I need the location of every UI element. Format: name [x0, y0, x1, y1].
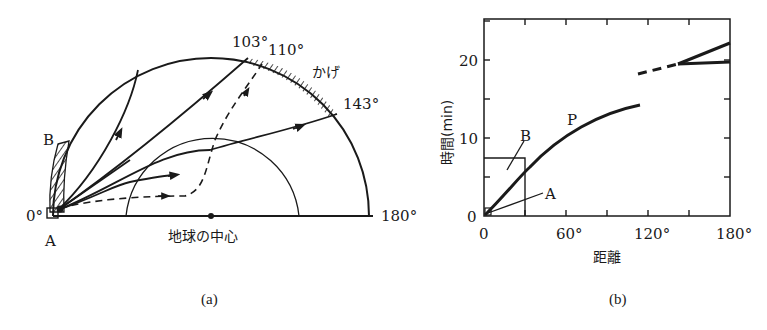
region-b-label: B — [520, 127, 531, 145]
figure-b-caption: (b) — [609, 291, 627, 308]
region-b-label: B — [43, 131, 54, 149]
curve-pkp-lower — [678, 62, 730, 64]
figure-b-travel-time-chart: 0 10 20 0 60° 120° 180° 距離 時間(min) P B A… — [439, 19, 752, 308]
curve-pkp-dashed — [638, 64, 678, 74]
angle-label-143: 143° — [343, 95, 379, 113]
figure-a-caption: (a) — [201, 291, 218, 308]
x-axis-label: 距離 — [593, 249, 621, 265]
ray-1 — [58, 70, 138, 210]
y-axis-label: 時間(min) — [439, 100, 455, 165]
ray-2 — [58, 58, 248, 210]
x-tick-60: 60° — [556, 225, 583, 243]
x-tick-120: 120° — [634, 225, 670, 243]
x-tick-0: 0 — [479, 225, 489, 243]
angle-label-110: 110° — [268, 41, 304, 59]
figure-a-earth-cross-section: 0° 180° 103° 110° 143° かげ 地球の中心 A B (a) — [26, 33, 417, 308]
curve-p-label: P — [567, 111, 577, 129]
y-tick-10: 10 — [459, 130, 478, 148]
y-tick-0: 0 — [467, 208, 477, 226]
earth-center-dot — [208, 213, 214, 219]
y-tick-20: 20 — [459, 52, 478, 70]
x-tick-180: 180° — [716, 225, 752, 243]
shadow-zone-label: かげ — [312, 64, 340, 80]
angle-label-103: 103° — [232, 33, 268, 51]
region-a-label: A — [544, 185, 556, 203]
figure-canvas: 0° 180° 103° 110° 143° かげ 地球の中心 A B (a) — [0, 0, 767, 330]
plot-frame — [484, 19, 730, 216]
earth-center-label: 地球の中心 — [168, 228, 238, 244]
leader-b — [507, 141, 524, 170]
angle-label-180: 180° — [381, 207, 417, 225]
curve-p — [485, 105, 640, 215]
region-a-label: A — [44, 232, 56, 250]
angle-label-0: 0° — [26, 207, 43, 225]
y-ticks — [484, 21, 730, 177]
